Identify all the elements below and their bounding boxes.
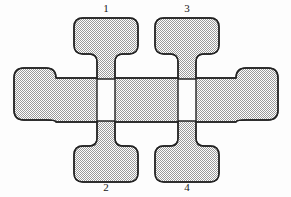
device-pattern-figure: 1 3 2 4 xyxy=(0,0,291,197)
device-outline-group xyxy=(14,18,278,182)
device-pattern-drawing xyxy=(0,0,291,197)
pad-bottom-left-shape xyxy=(74,121,138,182)
pad-label-1: 1 xyxy=(96,3,116,14)
pad-label-3: 3 xyxy=(177,3,197,14)
pad-top-right-shape xyxy=(155,18,219,79)
pad-top-left-shape xyxy=(74,18,138,79)
pad-label-4: 4 xyxy=(177,182,197,193)
pad-right-shape xyxy=(196,68,278,122)
central-horizontal-channel xyxy=(115,78,178,122)
pad-label-2: 2 xyxy=(96,182,116,193)
pad-bottom-right-shape xyxy=(155,121,219,182)
